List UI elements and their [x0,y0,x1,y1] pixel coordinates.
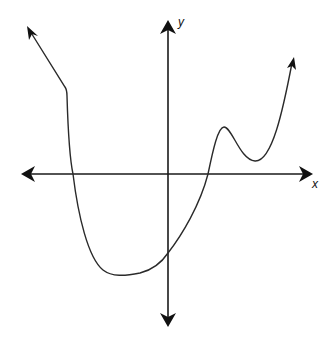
y-axis-label: y [177,15,185,29]
x-axis: x [21,166,319,191]
x-axis-label: x [311,177,319,191]
function-curve [27,26,296,275]
function-graph: x y [0,0,335,342]
y-axis: y [160,15,185,327]
curve-path [30,31,292,275]
curve-left-end-arrow-icon [27,26,38,40]
